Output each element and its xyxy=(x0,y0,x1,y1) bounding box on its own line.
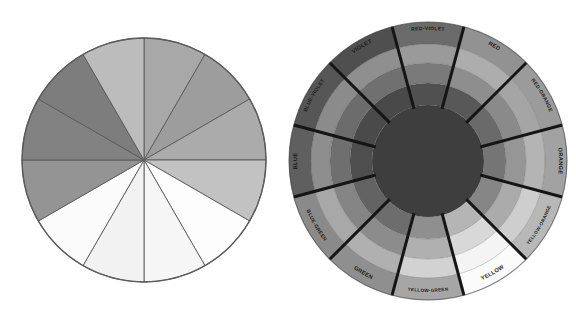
labeled-wheel-group xyxy=(289,22,567,300)
wheel-label-blue: BLUE xyxy=(292,153,298,170)
color-wheel-figure: REDRED-ORANGEORANGEYELLOW-ORANGEYELLOWYE… xyxy=(0,0,576,317)
wheel-cell-red-violet-ring-2 xyxy=(403,63,454,86)
wheel-cell-yellow-green-ring-2 xyxy=(403,236,454,259)
value-wheel-group xyxy=(22,38,266,282)
wheel-cell-blue-ring-2 xyxy=(330,136,353,187)
wheel-cell-orange-ring-2 xyxy=(503,136,526,187)
right-panel-labeled-wheel: REDRED-ORANGEORANGEYELLOW-ORANGEYELLOWYE… xyxy=(288,0,576,317)
wheel-label-red-violet: RED-VIOLET xyxy=(411,25,445,32)
labeled-color-wheel-svg: REDRED-ORANGEORANGEYELLOW-ORANGEYELLOWYE… xyxy=(288,0,576,317)
value-wheel-svg xyxy=(0,0,288,317)
left-panel-value-wheel xyxy=(0,0,288,317)
